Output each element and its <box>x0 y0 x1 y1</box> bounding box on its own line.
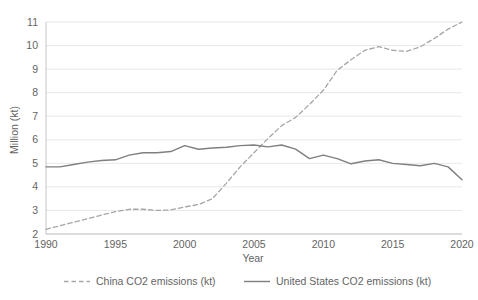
legend-item-united-states[interactable]: United States CO2 emissions (kt) <box>244 275 431 287</box>
x-tick-label: 1990 <box>34 238 58 250</box>
series-line-united-states <box>46 145 462 180</box>
y-tick-label: 11 <box>27 16 38 28</box>
legend-item-china[interactable]: China CO2 emissions (kt) <box>64 275 216 287</box>
x-axis-title: Year <box>242 252 264 264</box>
data-series-group <box>46 22 462 229</box>
line-chart: 234567891011 199019952000200520102015202… <box>0 0 478 300</box>
y-tick-label: 9 <box>32 63 38 75</box>
y-tick-label: 4 <box>32 180 38 192</box>
gridlines <box>46 22 462 234</box>
x-tick-label: 2010 <box>312 238 336 250</box>
y-axis-title: Million (kt) <box>8 106 20 154</box>
y-tick-label: 10 <box>26 39 38 51</box>
x-tick-label: 2000 <box>173 238 197 250</box>
x-tick-label: 2005 <box>242 238 266 250</box>
x-tick-label: 2015 <box>381 238 405 250</box>
x-axis-tick-labels: 1990199520002005201020152020 <box>34 238 474 250</box>
x-tick-label: 2020 <box>450 238 474 250</box>
y-tick-label: 7 <box>32 110 38 122</box>
legend-label-united-states: United States CO2 emissions (kt) <box>276 275 431 287</box>
x-tick-label: 1995 <box>104 238 128 250</box>
legend-label-china: China CO2 emissions (kt) <box>96 275 216 287</box>
y-tick-label: 8 <box>32 86 38 98</box>
y-axis-tick-labels: 234567891011 <box>26 16 38 240</box>
chart-legend: China CO2 emissions (kt)United States CO… <box>64 275 431 287</box>
y-tick-label: 3 <box>32 204 38 216</box>
chart-container: 234567891011 199019952000200520102015202… <box>0 0 478 300</box>
y-tick-label: 6 <box>32 133 38 145</box>
axis-lines <box>46 22 462 234</box>
series-line-china <box>46 22 462 229</box>
y-tick-label: 5 <box>32 157 38 169</box>
